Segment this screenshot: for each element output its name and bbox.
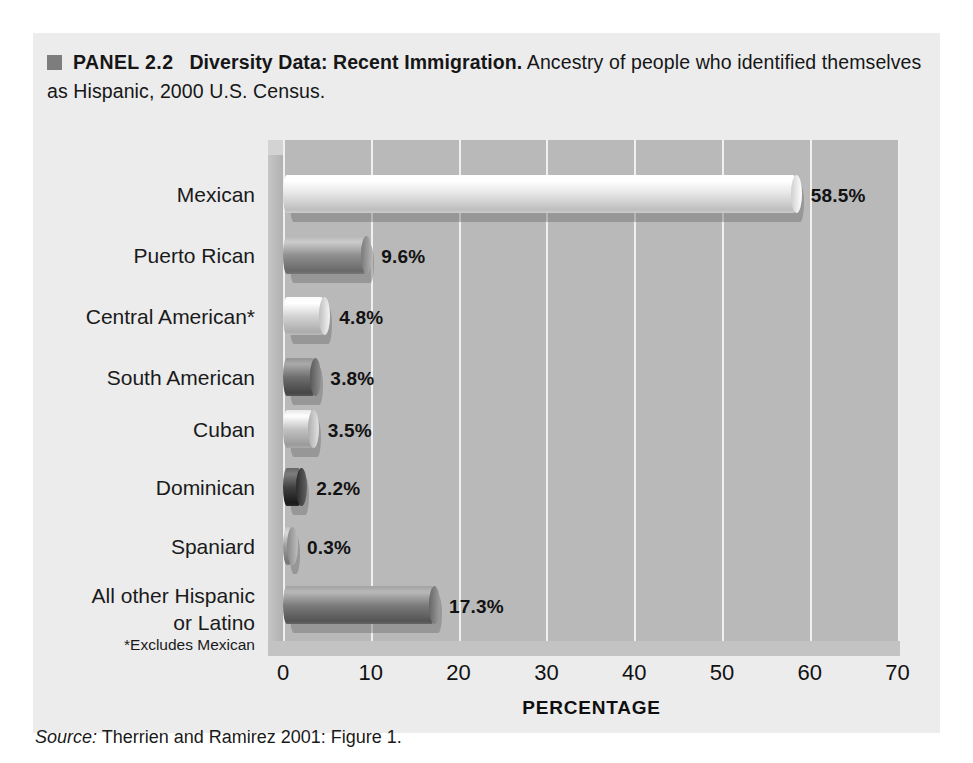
bar-value-label-2: 4.8% xyxy=(339,307,383,329)
bar-4 xyxy=(283,410,314,448)
x-tick-70: 70 xyxy=(868,660,928,686)
x-axis-title: PERCENTAGE xyxy=(283,697,900,719)
bar-value-label-6: 0.3% xyxy=(307,537,351,559)
category-label-7: All other Hispanic or Latino xyxy=(92,582,255,636)
bar-value-label-4: 3.5% xyxy=(328,420,372,442)
bar-body-0 xyxy=(283,175,797,213)
bar-cap-4 xyxy=(308,410,319,448)
x-tick-20: 20 xyxy=(429,660,489,686)
bar-body-1 xyxy=(283,236,367,274)
bar-5 xyxy=(283,468,302,506)
bar-value-label-5: 2.2% xyxy=(316,478,360,500)
bar-body-7 xyxy=(283,586,435,624)
bar-3 xyxy=(283,358,316,396)
plot-floor xyxy=(268,641,900,656)
gridline-60 xyxy=(810,140,812,641)
bar-cap-6 xyxy=(287,527,298,565)
x-tick-0: 0 xyxy=(253,660,313,686)
bar-7 xyxy=(283,586,435,624)
category-label-0: Mexican xyxy=(177,181,255,208)
bar-cap-0 xyxy=(791,175,802,213)
footnote: *Excludes Mexican xyxy=(124,636,255,654)
bar-value-label-1: 9.6% xyxy=(381,246,425,268)
bar-value-label-0: 58.5% xyxy=(811,185,866,207)
category-label-5: Dominican xyxy=(156,474,255,501)
plot-left-wall xyxy=(268,140,283,656)
x-tick-60: 60 xyxy=(780,660,840,686)
category-label-4: Cuban xyxy=(193,416,255,443)
bar-cap-7 xyxy=(429,586,440,624)
category-label-3: South American xyxy=(107,364,255,391)
bar-2 xyxy=(283,297,325,335)
x-tick-50: 50 xyxy=(692,660,752,686)
source-label: Source: xyxy=(35,727,97,747)
category-label-6: Spaniard xyxy=(171,533,255,560)
bar-value-label-3: 3.8% xyxy=(330,368,374,390)
bar-1 xyxy=(283,236,367,274)
source-text: Therrien and Ramirez 2001: Figure 1. xyxy=(97,727,402,747)
plot-wall-top xyxy=(268,140,283,155)
bar-0 xyxy=(283,175,797,213)
category-label-2: Central American* xyxy=(86,303,255,330)
panel-figure: PANEL 2.2Diversity Data: Recent Immigrat… xyxy=(0,0,973,763)
category-label-1: Puerto Rican xyxy=(134,242,255,269)
bar-value-label-7: 17.3% xyxy=(449,596,504,618)
gridline-70 xyxy=(898,140,900,641)
bar-chart: 58.5%9.6%4.8%3.8%3.5%2.2%0.3%17.3% Mexic… xyxy=(0,0,973,763)
x-tick-40: 40 xyxy=(604,660,664,686)
x-tick-30: 30 xyxy=(516,660,576,686)
x-tick-10: 10 xyxy=(341,660,401,686)
source-line: Source: Therrien and Ramirez 2001: Figur… xyxy=(35,727,402,748)
bar-6 xyxy=(283,527,293,565)
